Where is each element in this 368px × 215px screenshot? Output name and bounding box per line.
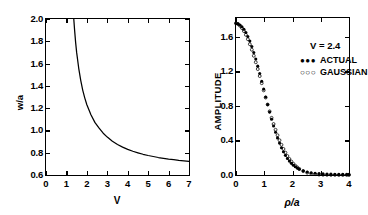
left-plot-canvas [46, 19, 191, 177]
x-tick-label: 3 [318, 179, 323, 189]
y-tick [345, 140, 349, 141]
x-tick [189, 19, 190, 23]
actual-data-point [306, 170, 309, 173]
y-tick [185, 175, 189, 176]
actual-data-point [286, 157, 289, 160]
y-tick [185, 64, 189, 65]
legend-entry-gaussian: ○○○ GAUSSIAN [300, 67, 368, 78]
legend-label-actual: ACTUAL [320, 55, 357, 66]
y-tick-label: 1.0 [30, 126, 43, 136]
y-tick-label: 0.6 [30, 170, 43, 180]
gaussian-data-point [256, 68, 259, 71]
y-tick [185, 86, 189, 87]
actual-data-point [256, 65, 259, 68]
actual-data-point [302, 169, 305, 172]
actual-data-point [325, 173, 328, 176]
actual-data-point [244, 31, 247, 34]
x-tick [293, 171, 294, 175]
x-tick-label: 1 [262, 179, 267, 189]
x-tick-label: 5 [145, 179, 150, 189]
x-tick-label: 6 [166, 179, 171, 189]
actual-data-point [282, 150, 285, 153]
x-tick [66, 171, 67, 175]
actual-data-point [274, 131, 277, 134]
y-tick [236, 106, 240, 107]
x-tick [169, 171, 170, 175]
gaussian-data-point [276, 134, 279, 137]
gaussian-data-point [252, 54, 255, 57]
right-plot-frame: V = 2.4 ●●● ACTUAL ○○○ GAUSSIAN 0.00.40.… [235, 17, 350, 176]
right-plot-x-axis-title: ρ/a [284, 196, 299, 208]
y-tick [185, 108, 189, 109]
actual-data-point [252, 51, 255, 54]
x-tick [236, 171, 237, 175]
x-tick-label: 0 [233, 179, 238, 189]
x-tick-label: 1 [64, 179, 69, 189]
y-tick [185, 41, 189, 42]
x-tick-label: 0 [43, 179, 48, 189]
y-tick-label: 1.8 [30, 37, 43, 47]
x-tick-label: 4 [346, 179, 351, 189]
y-tick-label: 1.6 [220, 32, 233, 42]
left-plot-x-axis-title: V [114, 195, 121, 206]
actual-data-point [341, 173, 344, 176]
x-tick-label: 4 [125, 179, 130, 189]
actual-data-point [250, 45, 253, 48]
actual-data-point [248, 40, 251, 43]
actual-data-point [262, 88, 265, 91]
actual-data-point [268, 111, 271, 114]
x-tick [46, 19, 47, 23]
x-tick [128, 19, 129, 23]
actual-data-point [240, 25, 243, 28]
y-tick-label: 1.6 [30, 59, 43, 69]
x-tick [87, 171, 88, 175]
y-tick-label: 0.0 [220, 170, 233, 180]
actual-data-point [333, 173, 336, 176]
x-tick [321, 18, 322, 22]
y-tick [236, 175, 240, 176]
y-tick [46, 130, 50, 131]
actual-data-point [260, 80, 263, 83]
x-tick [321, 171, 322, 175]
x-tick [189, 171, 190, 175]
actual-data-point [310, 171, 313, 174]
open-circle-icon: ○○○ [300, 68, 316, 78]
x-tick [349, 18, 350, 22]
x-tick [169, 19, 170, 23]
gaussian-data-point [278, 139, 281, 142]
gaussian-data-point [254, 61, 257, 64]
actual-data-point [246, 35, 249, 38]
y-tick [46, 41, 50, 42]
x-tick-label: 3 [105, 179, 110, 189]
actual-data-point [242, 28, 245, 31]
y-tick [345, 37, 349, 38]
actual-data-point [266, 103, 269, 106]
x-tick-label: 2 [290, 179, 295, 189]
y-tick [185, 130, 189, 131]
actual-data-point [284, 154, 287, 157]
actual-data-point [276, 136, 279, 139]
right-plot-y-axis-title: AMPLITUDE [212, 72, 223, 130]
y-tick-label: 1.2 [30, 103, 43, 113]
y-tick [185, 153, 189, 154]
y-tick-label: 1.4 [30, 81, 43, 91]
actual-data-point [270, 118, 273, 121]
y-tick [236, 71, 240, 72]
right-plot-legend: V = 2.4 ●●● ACTUAL ○○○ GAUSSIAN [300, 40, 368, 79]
x-tick [107, 171, 108, 175]
y-tick [46, 153, 50, 154]
filled-circle-icon: ●●● [300, 56, 316, 66]
x-tick [148, 171, 149, 175]
actual-data-point [337, 173, 340, 176]
y-tick [345, 175, 349, 176]
y-tick-label: 0.8 [30, 148, 43, 158]
actual-data-point [254, 58, 257, 61]
x-tick [264, 18, 265, 22]
legend-entry-actual: ●●● ACTUAL [300, 55, 368, 66]
x-tick [128, 171, 129, 175]
x-tick [349, 171, 350, 175]
x-tick [107, 19, 108, 23]
legend-label-gaussian: GAUSSIAN [320, 67, 368, 78]
actual-data-point [314, 172, 317, 175]
